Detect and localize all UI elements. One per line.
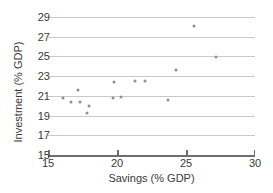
data-point xyxy=(143,80,146,83)
y-tick-label: 21 xyxy=(38,90,50,102)
data-point xyxy=(120,95,123,98)
data-point xyxy=(175,69,178,72)
data-point xyxy=(88,104,91,107)
data-point xyxy=(167,98,170,101)
gridline xyxy=(48,96,255,97)
y-tick-label: 19 xyxy=(38,110,50,122)
gridline xyxy=(48,56,255,57)
x-axis-title: Savings (% GDP) xyxy=(48,172,255,184)
data-point xyxy=(111,96,114,99)
y-tick-label: 25 xyxy=(38,50,50,62)
y-tick-label: 27 xyxy=(38,31,50,43)
data-point xyxy=(78,100,81,103)
data-point xyxy=(70,100,73,103)
scatter-chart: Savings (% GDP) Investment (% GDP) 15171… xyxy=(0,0,273,193)
gridline xyxy=(48,37,255,38)
data-point xyxy=(193,24,196,27)
gridline xyxy=(48,17,255,18)
x-axis-line xyxy=(48,155,255,157)
y-tick-label: 29 xyxy=(38,11,50,23)
x-tick-label: 25 xyxy=(180,157,192,169)
gridline xyxy=(48,76,255,77)
data-point xyxy=(77,88,80,91)
gridline xyxy=(48,116,255,117)
data-point xyxy=(215,56,218,59)
x-tick xyxy=(117,150,119,155)
y-axis-title: Investment (% GDP) xyxy=(12,22,24,162)
y-tick-label: 23 xyxy=(38,70,50,82)
data-point xyxy=(85,111,88,114)
x-tick xyxy=(186,150,188,155)
y-tick-label: 17 xyxy=(38,129,50,141)
data-point xyxy=(133,80,136,83)
data-point xyxy=(62,96,65,99)
x-tick-label: 30 xyxy=(249,157,261,169)
plot-area xyxy=(48,17,255,155)
x-tick-label: 15 xyxy=(42,157,54,169)
x-tick xyxy=(254,150,256,155)
data-point xyxy=(113,81,116,84)
x-tick xyxy=(48,150,50,155)
x-tick-label: 20 xyxy=(111,157,123,169)
gridline xyxy=(48,135,255,136)
